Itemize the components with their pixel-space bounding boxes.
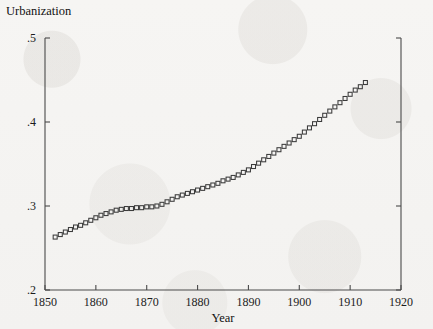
data-point-marker — [150, 205, 154, 209]
data-point-marker — [307, 126, 311, 130]
data-point-marker — [201, 186, 205, 190]
data-point-marker — [74, 225, 78, 229]
data-point-marker — [297, 134, 301, 138]
data-point-marker — [262, 158, 266, 162]
data-point-marker — [94, 216, 98, 220]
data-point-marker — [196, 188, 200, 192]
data-point-marker — [160, 202, 164, 206]
data-point-marker — [140, 206, 144, 210]
data-point-marker — [358, 85, 362, 89]
y-tick-label: .2 — [27, 283, 36, 297]
data-point-marker — [63, 230, 67, 234]
data-point-marker — [328, 109, 332, 113]
data-point-marker — [175, 195, 179, 199]
data-point-marker — [170, 197, 174, 201]
data-point-marker — [231, 175, 235, 179]
data-point-marker — [252, 165, 256, 169]
data-point-marker — [363, 81, 367, 85]
data-point-marker — [257, 161, 261, 165]
data-point-marker — [99, 213, 103, 217]
urbanization-scatter-chart: Urbanization 185018601870188018901900191… — [0, 0, 433, 329]
data-point-marker — [114, 208, 118, 212]
data-point-marker — [267, 154, 271, 158]
y-tick-label: .5 — [27, 31, 36, 45]
data-point-marker — [135, 206, 139, 210]
data-point-marker — [89, 218, 93, 222]
data-point-marker — [119, 207, 123, 211]
data-point-marker — [206, 185, 210, 189]
data-point-marker — [129, 207, 133, 211]
data-point-marker — [190, 190, 194, 194]
data-point-marker — [211, 183, 215, 187]
data-point-marker — [58, 233, 62, 237]
data-point-marker — [318, 117, 322, 121]
page-title: Urbanization — [6, 4, 72, 18]
axis-spines — [45, 38, 401, 290]
x-tick-label: 1860 — [84, 295, 108, 309]
data-point-marker — [272, 151, 276, 155]
data-point-marker — [333, 105, 337, 109]
x-tick-label: 1890 — [236, 295, 260, 309]
x-tick-label: 1920 — [389, 295, 413, 309]
data-point-marker — [353, 88, 357, 92]
data-point-marker — [246, 168, 250, 172]
data-point-marker — [277, 148, 281, 152]
data-point-marker — [221, 179, 225, 183]
data-point-marker — [79, 223, 83, 227]
x-tick-label: 1850 — [33, 295, 57, 309]
x-axis-title: Year — [211, 311, 235, 325]
data-point-marker — [68, 228, 72, 232]
x-tick-label: 1870 — [135, 295, 159, 309]
data-point-marker — [338, 101, 342, 105]
data-point-marker — [53, 235, 57, 239]
data-point-marker — [323, 113, 327, 117]
x-tick-label: 1880 — [186, 295, 210, 309]
data-point-marker — [185, 191, 189, 195]
data-series-urbanization — [53, 81, 367, 240]
y-tick-label: .4 — [27, 115, 36, 129]
data-point-marker — [302, 130, 306, 134]
chart-canvas: Urbanization 185018601870188018901900191… — [0, 0, 433, 329]
y-axis-ticks — [45, 38, 401, 290]
y-axis-tick-labels: .2.3.4.5 — [27, 31, 36, 297]
data-point-marker — [292, 138, 296, 142]
data-point-marker — [236, 173, 240, 177]
data-point-marker — [124, 207, 128, 211]
data-point-marker — [226, 177, 230, 181]
data-point-marker — [216, 181, 220, 185]
data-point-marker — [155, 204, 159, 208]
x-axis-ticks — [45, 285, 401, 290]
data-point-marker — [165, 200, 169, 204]
data-point-marker — [241, 170, 245, 174]
data-point-marker — [287, 141, 291, 145]
y-tick-label: .3 — [27, 199, 36, 213]
data-point-marker — [180, 193, 184, 197]
data-point-marker — [348, 92, 352, 96]
data-point-marker — [84, 221, 88, 225]
x-tick-label: 1910 — [338, 295, 362, 309]
x-axis-tick-labels: 18501860187018801890190019101920 — [33, 295, 413, 309]
data-point-marker — [145, 205, 149, 209]
data-point-marker — [104, 212, 108, 216]
data-point-marker — [313, 122, 317, 126]
data-point-marker — [343, 96, 347, 100]
x-tick-label: 1900 — [287, 295, 311, 309]
data-point-marker — [109, 210, 113, 214]
data-point-marker — [282, 144, 286, 148]
